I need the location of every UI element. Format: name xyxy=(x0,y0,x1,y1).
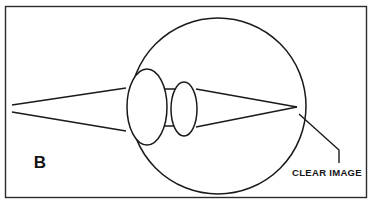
eye-diagram-svg: B CLEAR IMAGE xyxy=(0,0,373,206)
cornea-outline xyxy=(127,69,167,145)
clear-image-label: CLEAR IMAGE xyxy=(292,167,362,178)
lens-outline xyxy=(171,82,197,136)
figure-container: B CLEAR IMAGE xyxy=(0,0,373,206)
panel-label: B xyxy=(34,153,46,172)
